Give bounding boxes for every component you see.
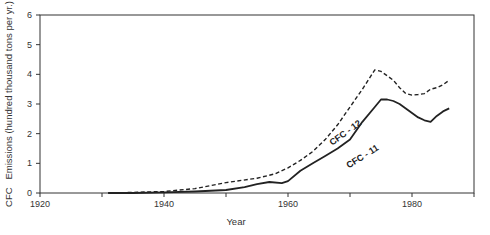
x-axis-title: Year	[226, 216, 245, 227]
y-tick-label: 2	[27, 129, 32, 139]
x-axis-ticks: 1920194019601980	[30, 193, 474, 209]
x-tick-label: 1980	[402, 199, 422, 209]
y-tick-label: 6	[27, 10, 32, 20]
cfc-emissions-chart: 0123456 1920194019601980 Year CFC Emissi…	[0, 0, 490, 235]
x-tick-label: 1920	[30, 199, 50, 209]
y-tick-label: 0	[27, 188, 32, 198]
series-label-cfc11: CFC - 11	[344, 143, 380, 171]
series-layer	[108, 70, 449, 193]
x-tick-label: 1960	[278, 199, 298, 209]
y-tick-label: 1	[27, 158, 32, 168]
y-tick-label: 4	[27, 69, 32, 79]
series-line-cfc12	[108, 70, 449, 193]
y-tick-label: 3	[27, 99, 32, 109]
y-axis-title: CFC Emissions (hundred thousand tons per…	[3, 1, 14, 207]
y-axis-ticks: 0123456	[27, 10, 40, 198]
series-line-cfc11	[108, 100, 449, 194]
y-tick-label: 5	[27, 40, 32, 50]
plot-frame	[40, 15, 474, 193]
x-tick-label: 1940	[154, 199, 174, 209]
